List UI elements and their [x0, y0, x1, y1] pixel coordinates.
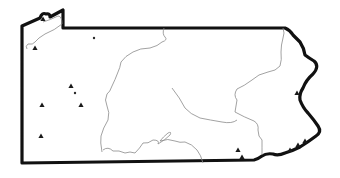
- markers-layer: [32, 16, 307, 159]
- river-north: [107, 28, 166, 94]
- susquehanna-river: [235, 28, 284, 155]
- dot-marker-icon: [93, 37, 95, 39]
- pennsylvania-map: [0, 0, 340, 178]
- triangle-marker-icon: [239, 154, 244, 159]
- triangle-marker-icon: [39, 102, 44, 107]
- triangle-marker-icon: [68, 83, 73, 88]
- triangle-marker-icon: [295, 142, 300, 147]
- potomac-tributary: [103, 132, 203, 163]
- juniata-river: [101, 94, 109, 152]
- map-container: [0, 0, 340, 178]
- dot-marker-icon: [74, 92, 76, 94]
- triangle-marker-icon: [294, 90, 299, 95]
- triangle-marker-icon: [235, 147, 240, 152]
- east-tributary: [172, 88, 237, 123]
- triangle-marker-icon: [38, 133, 43, 138]
- triangle-marker-icon: [78, 102, 83, 107]
- triangle-marker-icon: [32, 45, 37, 50]
